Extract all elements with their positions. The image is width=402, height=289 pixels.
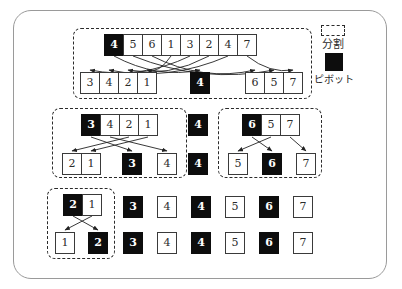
array-cell: 4 xyxy=(157,196,177,218)
array-cell: 1 xyxy=(137,72,157,94)
pivot-cell: 6 xyxy=(259,196,279,218)
pivot-cell: 3 xyxy=(123,232,143,254)
array-cell: 1 xyxy=(81,153,101,175)
pivot-cell: 4 xyxy=(188,153,208,175)
array-cell: 5 xyxy=(225,232,245,254)
array-cell: 7 xyxy=(293,232,313,254)
pivot-cell: 4 xyxy=(191,196,211,218)
array-cell: 5 xyxy=(228,153,248,175)
pivot-legend-label: ピボット xyxy=(311,73,357,86)
partition-legend-label: 分割 xyxy=(311,38,355,51)
array-cell: 2 xyxy=(199,34,219,56)
array-cell: 6 xyxy=(142,34,162,56)
array-cell: 4 xyxy=(157,153,177,175)
pivot-cell: 4 xyxy=(191,232,211,254)
array-cell: 1 xyxy=(138,114,158,136)
pivot-cell: 2 xyxy=(63,194,83,216)
array-cell: 7 xyxy=(280,114,300,136)
pivot-cell: 4 xyxy=(188,114,208,136)
pivot-cell: 6 xyxy=(259,232,279,254)
pivot-cell: 4 xyxy=(104,34,124,56)
array-cell: 7 xyxy=(283,72,303,94)
array-cell: 7 xyxy=(293,196,313,218)
pivot-cell: 4 xyxy=(190,72,210,94)
array-cell: 7 xyxy=(296,153,316,175)
pivot-cell: 2 xyxy=(88,232,108,254)
array-cell: 4 xyxy=(157,232,177,254)
array-cell: 4 xyxy=(99,72,119,94)
array-cell: 1 xyxy=(161,34,181,56)
array-cell: 1 xyxy=(82,194,102,216)
array-cell: 6 xyxy=(245,72,265,94)
array-cell: 5 xyxy=(123,34,143,56)
pivot-cell: 3 xyxy=(81,114,101,136)
pivot-cell: 3 xyxy=(123,196,143,218)
array-cell: 3 xyxy=(80,72,100,94)
array-cell: 5 xyxy=(225,196,245,218)
pivot-cell: 6 xyxy=(262,153,282,175)
pivot-legend-icon xyxy=(325,53,343,71)
array-cell: 7 xyxy=(237,34,257,56)
array-cell: 2 xyxy=(118,72,138,94)
array-cell: 4 xyxy=(218,34,238,56)
pivot-cell: 6 xyxy=(242,114,262,136)
array-cell: 5 xyxy=(264,72,284,94)
array-cell: 3 xyxy=(180,34,200,56)
array-cell: 2 xyxy=(119,114,139,136)
pivot-cell: 3 xyxy=(122,153,142,175)
array-cell: 2 xyxy=(62,153,82,175)
partition-legend-icon xyxy=(321,25,345,36)
quicksort-diagram: 4 5 6 1 3 2 4 7 3 4 2 1 4 6 5 7 3 4 2 1 … xyxy=(0,0,402,289)
array-cell: 1 xyxy=(55,232,75,254)
array-cell: 5 xyxy=(261,114,281,136)
array-cell: 4 xyxy=(100,114,120,136)
